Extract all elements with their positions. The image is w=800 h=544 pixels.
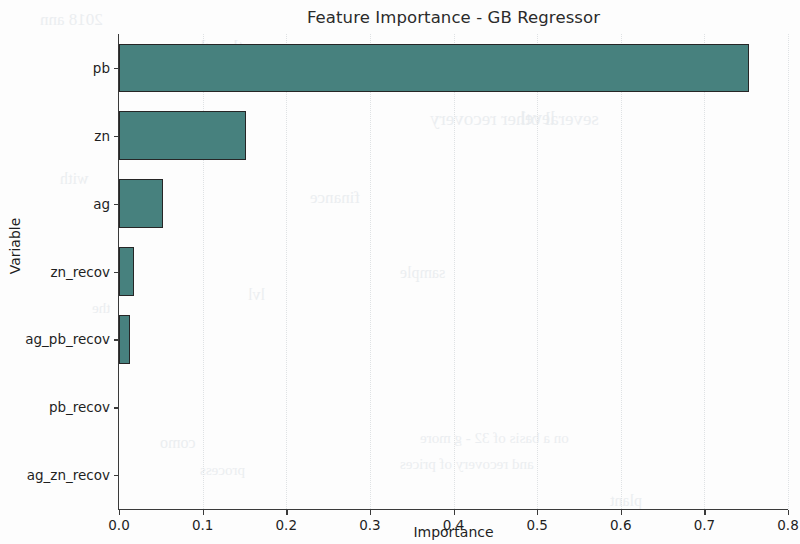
bar-zn[interactable]	[119, 111, 246, 160]
bar-row	[119, 383, 788, 432]
y-axis-spine	[118, 34, 119, 509]
bar-row	[119, 451, 788, 500]
y-tick-label-ag_zn_recov: ag_zn_recov	[27, 467, 110, 483]
x-tick-mark	[203, 510, 204, 515]
plot-area: pbznagzn_recovag_pb_recovpb_recovag_zn_r…	[119, 34, 788, 509]
x-tick-mark	[621, 510, 622, 515]
y-tick-label-zn_recov: zn_recov	[50, 264, 110, 280]
y-tick-label-pb_recov: pb_recov	[49, 399, 110, 415]
x-axis-spine	[118, 509, 788, 510]
y-tick-label-ag: ag	[93, 196, 110, 212]
x-tick-mark	[454, 510, 455, 515]
x-tick-mark	[370, 510, 371, 515]
x-tick-mark	[286, 510, 287, 515]
figure-canvas: Feature Importance - GB Regressor pbznag…	[0, 0, 800, 544]
x-tick-mark	[119, 510, 120, 515]
x-axis-label: Importance	[119, 524, 788, 540]
y-tick-label-zn: zn	[94, 128, 110, 144]
x-tick-mark	[704, 510, 705, 515]
bar-row	[119, 315, 788, 364]
chart-title: Feature Importance - GB Regressor	[119, 8, 788, 27]
bar-ag_pb_recov[interactable]	[119, 315, 130, 364]
bar-row	[119, 179, 788, 228]
bar-row	[119, 111, 788, 160]
y-tick-label-ag_pb_recov: ag_pb_recov	[25, 331, 110, 347]
bar-zn_recov[interactable]	[119, 247, 134, 296]
bar-row	[119, 247, 788, 296]
y-tick-label-pb: pb	[93, 60, 110, 76]
x-tick-mark	[788, 510, 789, 515]
y-axis-label: Variable	[7, 201, 23, 291]
bar-pb[interactable]	[119, 44, 749, 93]
bar-ag[interactable]	[119, 179, 163, 228]
x-tick-mark	[537, 510, 538, 515]
bar-row	[119, 44, 788, 93]
gridline	[788, 34, 790, 509]
